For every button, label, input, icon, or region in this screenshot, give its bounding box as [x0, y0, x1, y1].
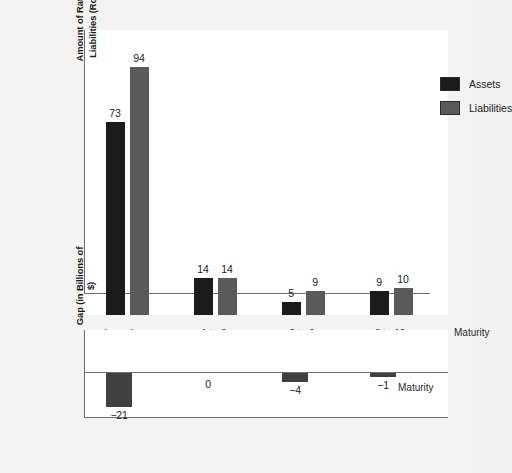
value-label-liabilities-less-than-1-month: 94	[124, 52, 154, 64]
gap-bar-3-to-6-months[interactable]	[282, 373, 308, 382]
legend-swatch-liabilities-icon	[440, 101, 460, 115]
chart-legend: Assets Liabilities	[440, 77, 512, 125]
gap-bar-6-to-12-months[interactable]	[370, 373, 396, 377]
bar-group-6-to-12-months: 9 10	[360, 52, 416, 315]
legend-label-liabilities: Liabilities	[469, 102, 512, 114]
legend-label-assets: Assets	[469, 78, 501, 90]
top-chart-y-axis-label-line1: Amount of Rate-Sensitive Assets and	[74, 0, 87, 86]
top-chart-x-axis-title: Maturity	[454, 327, 490, 338]
legend-item-liabilities[interactable]: Liabilities	[440, 101, 512, 115]
bar-group-less-than-1-month: 73 94	[96, 52, 152, 315]
bar-liabilities-3-to-6-months[interactable]	[306, 291, 325, 315]
bar-liabilities-1-to-3-months[interactable]	[218, 278, 237, 315]
value-label-liabilities-6-to-12-months: 10	[388, 273, 418, 285]
bar-group-1-to-3-months: 14 14	[184, 52, 240, 315]
bar-group-3-to-6-months: 5 9	[272, 52, 328, 315]
gap-chart-y-axis	[84, 330, 85, 418]
value-label-assets-3-to-6-months: 5	[276, 287, 306, 299]
bar-assets-6-to-12-months[interactable]	[370, 291, 389, 315]
gap-value-label-6-to-12-months: −1	[363, 379, 403, 391]
gap-bar-less-than-1-month[interactable]	[106, 373, 132, 407]
value-label-liabilities-3-to-6-months: 9	[300, 276, 330, 288]
gap-chart-y-axis-label: Gap (in Billions of $)	[74, 242, 96, 330]
legend-item-assets[interactable]: Assets	[440, 77, 512, 91]
bar-liabilities-6-to-12-months[interactable]	[394, 288, 413, 315]
top-chart-plot-area: Amount of Rate-Sensitive Assets and Liab…	[84, 30, 448, 315]
bar-assets-3-to-6-months[interactable]	[282, 302, 301, 315]
value-label-assets-less-than-1-month: 73	[100, 107, 130, 119]
gap-chart-x-axis-title: Maturity	[398, 382, 434, 393]
gap-value-label-1-to-3-months: 0	[188, 378, 228, 390]
bar-assets-1-to-3-months[interactable]	[194, 278, 213, 315]
gap-value-label-3-to-6-months: −4	[275, 384, 315, 396]
bar-assets-less-than-1-month[interactable]	[106, 122, 125, 315]
value-label-liabilities-1-to-3-months: 14	[212, 263, 242, 275]
legend-swatch-assets-icon	[440, 77, 460, 91]
gap-value-label-less-than-1-month: −21	[99, 409, 139, 421]
bar-liabilities-less-than-1-month[interactable]	[130, 67, 149, 315]
